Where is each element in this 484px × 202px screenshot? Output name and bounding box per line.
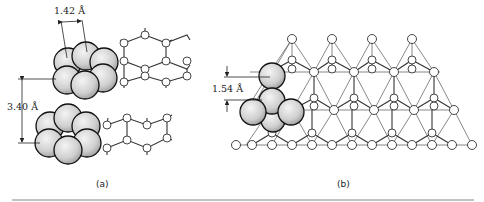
caption-a: (a) [96, 179, 109, 189]
figure-canvas: 1.42 Å [0, 0, 484, 202]
diamond-atom-cluster [240, 63, 304, 132]
interlayer-spacing-label: 3.40 Å [7, 101, 38, 112]
graphite-lower-sheet [103, 114, 172, 155]
bond-length-label-a: 1.42 Å [54, 5, 85, 16]
graphite-upper-sheet [120, 28, 191, 88]
panel-b: 1.54 Å (b) [212, 35, 477, 190]
graphite-lower-atom-cluster [35, 104, 101, 164]
bond-length-label-b: 1.54 Å [212, 83, 243, 94]
caption-b: (b) [337, 179, 350, 189]
graphite-upper-atom-cluster [53, 42, 118, 99]
panel-a: 1.42 Å [7, 5, 191, 189]
